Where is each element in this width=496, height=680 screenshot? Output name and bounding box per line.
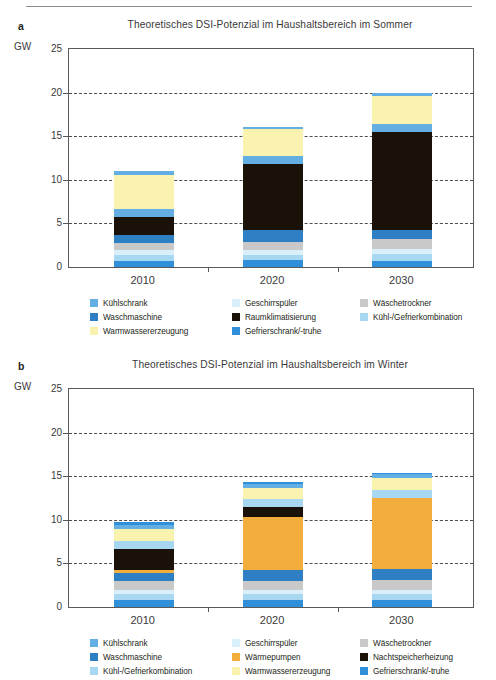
legend-item-kuehl_gefrierkombination[interactable]: Kühl-/Gefrierkombination bbox=[90, 664, 232, 678]
legend-label: Wäschetrockner bbox=[373, 639, 431, 648]
legend-item-warmwassererzeugung[interactable]: Warmwassererzeugung bbox=[232, 664, 360, 678]
legend-swatch-icon bbox=[232, 639, 240, 647]
x-axis-labels-a: 201020202030 bbox=[68, 272, 472, 290]
bar-segment bbox=[243, 594, 303, 600]
legend-item-kuehl_gefrierkombination[interactable]: Kühl-/Gefrierkombination bbox=[360, 310, 486, 324]
legend-swatch-icon bbox=[360, 313, 368, 321]
y-tick-mark bbox=[63, 93, 68, 94]
bar-2030 bbox=[372, 93, 432, 267]
panel-letter-a: a bbox=[18, 20, 24, 32]
bar-segment bbox=[372, 239, 432, 249]
bar-segment bbox=[114, 235, 174, 243]
legend-item-gefrierschrank_truhe[interactable]: Gefrierschrank/-truhe bbox=[232, 324, 360, 338]
legend-item-waermepumpen[interactable]: Wärmepumpen bbox=[232, 650, 360, 664]
bar-segment bbox=[243, 517, 303, 570]
legend-item-waschmaschine[interactable]: Waschmaschine bbox=[90, 310, 232, 324]
x-tick-label: 2030 bbox=[389, 274, 413, 286]
bar-2010 bbox=[114, 171, 174, 267]
bar-segment bbox=[243, 260, 303, 267]
bar-segment bbox=[114, 594, 174, 600]
bar-segment bbox=[372, 474, 432, 477]
bar-segment bbox=[114, 581, 174, 590]
bar-segment bbox=[372, 124, 432, 132]
legend-label: Gefrierschrank/-truhe bbox=[373, 667, 449, 676]
bar-segment bbox=[243, 129, 303, 156]
legend-item-kuehlschrank[interactable]: Kühlschrank bbox=[90, 296, 232, 310]
y-axis-labels-b: 0510152025 bbox=[36, 388, 62, 606]
legend-swatch-icon bbox=[232, 327, 240, 335]
bar-segment bbox=[243, 581, 303, 590]
bar-segment bbox=[243, 600, 303, 607]
legend-item-geschirrspueler[interactable]: Geschirrspüler bbox=[232, 636, 360, 650]
bar-2020 bbox=[243, 127, 303, 267]
legend-swatch-icon bbox=[360, 299, 368, 307]
bar-segment bbox=[114, 549, 174, 571]
y-tick-label: 0 bbox=[36, 261, 62, 272]
y-axis-labels-a: 0510152025 bbox=[36, 48, 62, 266]
page-top-rule bbox=[26, 6, 472, 7]
panel-letter-b: b bbox=[18, 360, 24, 372]
bar-segment bbox=[114, 600, 174, 607]
y-tick-label: 25 bbox=[36, 43, 62, 54]
bar-segment bbox=[372, 96, 432, 124]
x-tick-label: 2020 bbox=[260, 614, 284, 626]
bar-segment bbox=[243, 507, 303, 517]
bar-segment bbox=[372, 498, 432, 569]
legend-label: Kühlschrank bbox=[103, 299, 148, 308]
y-tick-label: 10 bbox=[36, 173, 62, 184]
legend-label: Kühl-/Gefrierkombination bbox=[103, 667, 192, 676]
legend-label: Warmwassererzeugung bbox=[103, 327, 188, 336]
bar-segment bbox=[114, 250, 174, 254]
bar-segment bbox=[114, 217, 174, 234]
legend-item-waschmaschine[interactable]: Waschmaschine bbox=[90, 650, 232, 664]
x-tick-label: 2030 bbox=[389, 614, 413, 626]
legend-swatch-icon bbox=[232, 653, 240, 661]
legend-swatch-icon bbox=[360, 667, 368, 675]
legend-item-warmwassererzeugung[interactable]: Warmwassererzeugung bbox=[90, 324, 232, 338]
bar-segment bbox=[114, 529, 174, 540]
bar-segment bbox=[114, 255, 174, 261]
y-tick-label: 20 bbox=[36, 86, 62, 97]
legend-label: Waschmaschine bbox=[103, 653, 162, 662]
y-tick-label: 5 bbox=[36, 217, 62, 228]
bar-segment bbox=[114, 171, 174, 174]
legend-swatch-icon bbox=[90, 327, 98, 335]
legend-swatch-icon bbox=[232, 667, 240, 675]
bar-segment bbox=[243, 570, 303, 580]
legend-swatch-icon bbox=[90, 313, 98, 321]
legend-item-geschirrspueler[interactable]: Geschirrspüler bbox=[232, 296, 360, 310]
legend-item-nachtspeicherheizung[interactable]: Nachtspeicherheizung bbox=[360, 650, 486, 664]
legend-item-waeschetrockner[interactable]: Wäschetrockner bbox=[360, 636, 486, 650]
bar-segment bbox=[243, 156, 303, 164]
bar-segment bbox=[372, 249, 432, 254]
x-tick-label: 2010 bbox=[130, 274, 154, 286]
legend-item-kuehlschrank[interactable]: Kühlschrank bbox=[90, 636, 232, 650]
y-axis-unit-b: GW bbox=[14, 381, 31, 392]
bar-segment bbox=[243, 164, 303, 230]
y-tick-mark bbox=[63, 433, 68, 434]
bar-segment bbox=[114, 541, 174, 549]
legend-swatch-icon bbox=[90, 653, 98, 661]
legend-label: Warmwassererzeugung bbox=[245, 667, 330, 676]
legend-row: WarmwassererzeugungGefrierschrank/-truhe bbox=[90, 324, 486, 338]
y-tick-label: 0 bbox=[36, 601, 62, 612]
panel-title-a: Theoretisches DSI-Potenzial im Haushalts… bbox=[60, 19, 480, 30]
legend-label: Wäschetrockner bbox=[373, 299, 431, 308]
bar-segment bbox=[114, 573, 174, 581]
bar-segment bbox=[243, 488, 303, 499]
bar-segment bbox=[243, 255, 303, 260]
plot-area-b bbox=[68, 388, 474, 608]
legend-item-waeschetrockner[interactable]: Wäschetrockner bbox=[360, 296, 486, 310]
y-tick-mark bbox=[63, 476, 68, 477]
bar-segment bbox=[114, 525, 174, 529]
bar-segment bbox=[372, 93, 432, 96]
y-tick-label: 25 bbox=[36, 383, 62, 394]
legend-swatch-icon bbox=[360, 653, 368, 661]
legend-swatch-icon bbox=[360, 639, 368, 647]
legend-item-raumklimatisierung[interactable]: Raumklimatisierung bbox=[232, 310, 360, 324]
y-tick-label: 20 bbox=[36, 426, 62, 437]
legend-item-gefrierschrank_truhe[interactable]: Gefrierschrank/-truhe bbox=[360, 664, 486, 678]
panel-title-b: Theoretisches DSI-Potenzial im Haushalts… bbox=[60, 359, 480, 370]
legend-label: Raumklimatisierung bbox=[245, 313, 316, 322]
bar-2020 bbox=[243, 482, 303, 607]
